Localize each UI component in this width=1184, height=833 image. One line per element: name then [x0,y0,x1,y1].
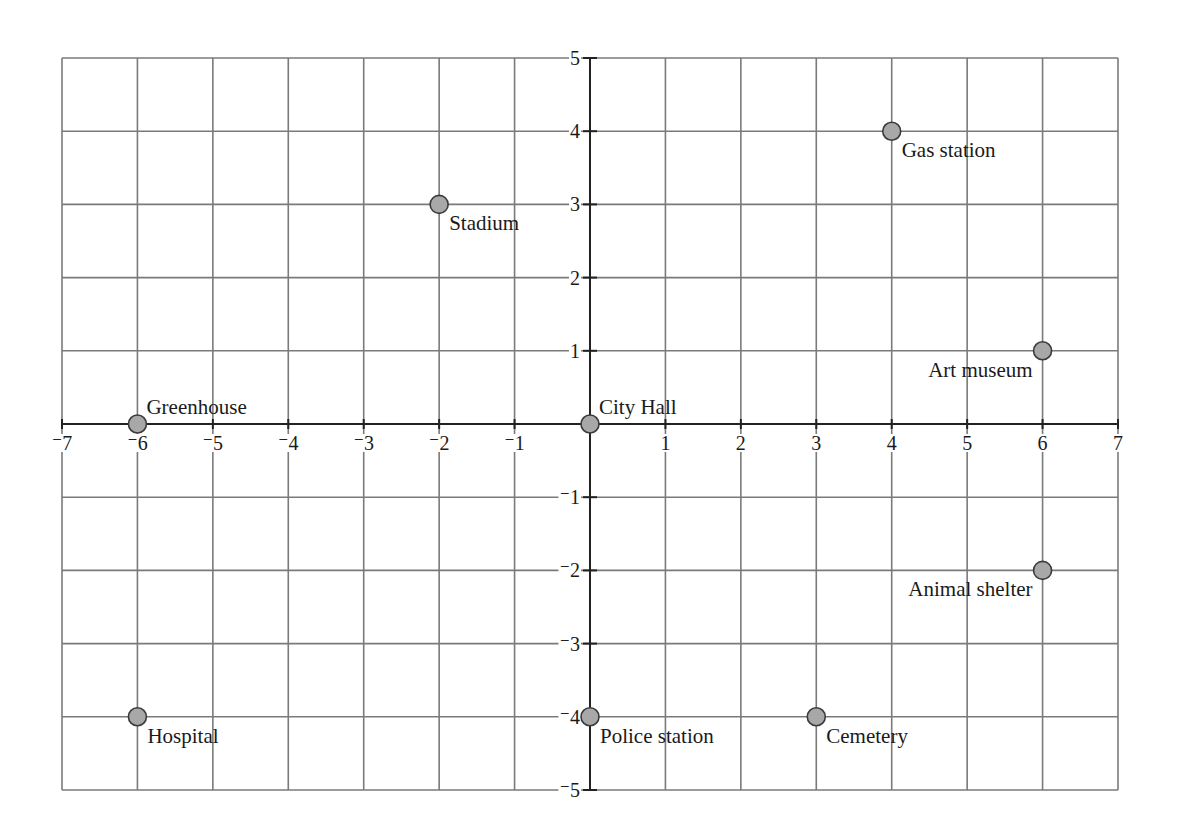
point-stadium: Stadium [430,195,519,235]
point-label: Police station [600,724,714,748]
point-label: Gas station [902,138,996,162]
x-tick-label: 7 [1113,432,1123,454]
point-label: City Hall [599,395,677,419]
y-tick-label: 4 [570,120,580,142]
point-police-station: Police station [581,708,714,748]
point-marker-icon [430,195,448,213]
point-hospital: Hospital [128,708,218,748]
x-tick-label: 1 [660,432,670,454]
point-gas-station: Gas station [883,122,996,162]
x-tick-label: ⁻4 [278,432,299,454]
point-greenhouse: Greenhouse [128,395,246,433]
point-marker-icon [581,415,599,433]
point-label: Cemetery [826,724,908,748]
x-tick-label: ⁻7 [52,432,73,454]
x-tick-label: 3 [811,432,821,454]
point-animal-shelter: Animal shelter [908,561,1051,601]
y-tick-label: ⁻5 [559,779,580,801]
y-tick-label: 3 [570,193,580,215]
point-marker-icon [807,708,825,726]
point-label: Stadium [449,211,519,235]
y-tick-label: 5 [570,47,580,69]
y-tick-label: 2 [570,267,580,289]
x-tick-label: ⁻5 [203,432,224,454]
point-cemetery: Cemetery [807,708,908,748]
point-art-museum: Art museum [928,342,1051,382]
point-marker-icon [581,708,599,726]
y-tick-label: ⁻1 [559,486,580,508]
point-label: Hospital [147,724,218,748]
point-marker-icon [1034,342,1052,360]
point-city-hall: City Hall [581,395,677,433]
x-tick-label: 4 [887,432,897,454]
coordinate-plane: ⁻7⁻6⁻5⁻4⁻3⁻2⁻1123456754321⁻1⁻2⁻3⁻4⁻5 Gas… [0,0,1184,833]
x-tick-label: ⁻1 [504,432,525,454]
point-marker-icon [1034,561,1052,579]
point-marker-icon [883,122,901,140]
point-label: Art museum [928,358,1032,382]
y-tick-label: 1 [570,340,580,362]
x-tick-label: 2 [736,432,746,454]
x-tick-label: ⁻6 [127,432,148,454]
x-tick-label: ⁻3 [353,432,374,454]
point-label: Greenhouse [146,395,246,419]
y-tick-label: ⁻4 [559,706,580,728]
x-tick-label: ⁻2 [429,432,450,454]
y-tick-label: ⁻2 [559,559,580,581]
x-tick-label: 5 [962,432,972,454]
point-label: Animal shelter [908,577,1032,601]
y-tick-label: ⁻3 [559,633,580,655]
point-marker-icon [128,708,146,726]
point-marker-icon [128,415,146,433]
x-tick-label: 6 [1038,432,1048,454]
